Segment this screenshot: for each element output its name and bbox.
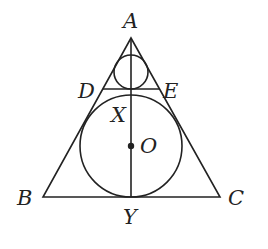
- label-x: X: [109, 103, 127, 127]
- label-y: Y: [123, 205, 139, 229]
- geometry-diagram: A B C D E X O Y: [0, 0, 268, 249]
- label-a: A: [121, 9, 138, 33]
- label-d: D: [77, 79, 95, 103]
- label-c: C: [228, 186, 244, 210]
- label-o: O: [140, 134, 157, 158]
- label-b: B: [16, 186, 32, 210]
- label-e: E: [162, 79, 178, 103]
- center-point-o: [128, 143, 134, 149]
